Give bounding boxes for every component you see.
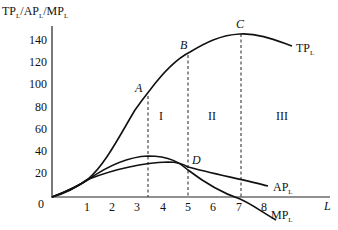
point-C-label: C [236,17,245,31]
svg-text:4: 4 [160,200,166,214]
svg-text:5: 5 [185,200,191,214]
tp-curve [52,34,292,197]
ap-curve [52,162,268,197]
svg-text:60: 60 [35,122,47,136]
y-tick-labels: 140 120 100 80 60 40 20 [29,33,47,180]
svg-text:20: 20 [35,166,47,180]
svg-text:120: 120 [29,55,47,69]
svg-text:100: 100 [29,77,47,91]
svg-text:40: 40 [35,144,47,158]
production-chart: TPL/APL/MPL 140 120 100 80 60 40 20 0 1 … [0,0,338,230]
svg-text:1: 1 [84,200,90,214]
x-axis-label: L [323,199,331,213]
stage-I-label: I [159,109,163,123]
x-tick-labels: 1 2 3 4 5 6 7 8 [84,200,267,214]
origin-label: 0 [38,197,44,211]
svg-text:3: 3 [134,200,140,214]
svg-text:6: 6 [210,200,216,214]
tp-label: TPL [296,41,314,57]
stage-III-label: III [276,109,288,123]
ap-label: APL [273,180,293,196]
svg-text:140: 140 [29,33,47,47]
svg-text:7: 7 [236,200,242,214]
svg-text:80: 80 [35,100,47,114]
mp-label: MPL [271,208,293,224]
point-D-label: D [191,153,201,167]
stage-II-label: II [208,109,216,123]
point-A-label: A [134,81,143,95]
point-B-label: B [180,38,188,52]
y-axis-label: TPL/APL/MPL [2,4,68,20]
svg-text:2: 2 [109,200,115,214]
